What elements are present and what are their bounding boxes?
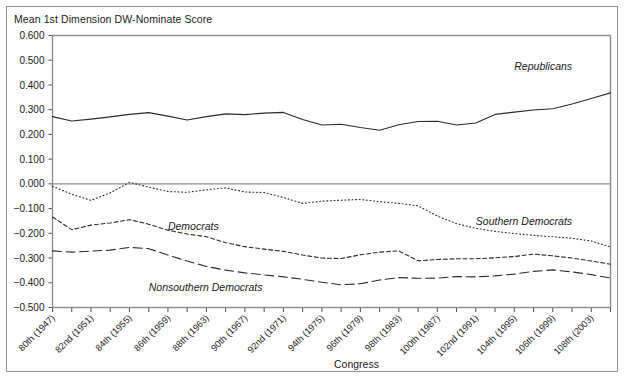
x-axis-tick-label: 104th (1995) (475, 313, 519, 357)
plot-area-wrapper: 0.6000.5000.4000.3000.2000.1000.000−0.10… (0, 0, 624, 378)
x-axis-tick-label: 84th (1955) (94, 313, 134, 353)
x-axis-tick-label: 82nd (1951) (53, 313, 95, 355)
data-series-group (53, 93, 611, 285)
x-axis-tick-label: 94th (1975) (286, 313, 326, 353)
series-label-democrats: Democrats (168, 220, 220, 232)
y-axis-tick-label: −0.200 (14, 228, 45, 239)
series-line-nonsouthern-democrats (53, 247, 611, 284)
x-axis-tick-group: 80th (1947)82nd (1951)84th (1955)86th (1… (17, 308, 611, 359)
x-axis-tick-label: 88th (1963) (171, 313, 211, 353)
x-axis-tick-label: 80th (1947) (17, 313, 57, 353)
x-axis-tick-label: 98th (1983) (363, 313, 403, 353)
y-axis-tick-label: 0.100 (19, 154, 44, 165)
line-chart-svg: 0.6000.5000.4000.3000.2000.1000.000−0.10… (0, 0, 624, 378)
x-axis-tick-label: 92nd (1971) (246, 313, 288, 355)
series-label-republicans: Republicans (514, 60, 573, 72)
x-axis-tick-label: 106th (1999) (513, 313, 557, 357)
x-axis-title: Congress (334, 358, 379, 370)
x-axis-tick-label: 96th (1979) (324, 313, 364, 353)
x-axis-tick-label: 86th (1959) (132, 313, 172, 353)
y-axis-tick-label: 0.500 (19, 55, 44, 66)
y-axis-tick-label: 0.000 (19, 178, 44, 189)
y-axis-tick-label: −0.100 (14, 203, 45, 214)
series-label-nonsouthern-democrats: Nonsouthern Democrats (149, 281, 264, 293)
y-axis-tick-label: −0.500 (14, 302, 45, 313)
series-label-southern-democrats: Southern Democrats (476, 215, 573, 227)
y-axis-tick-label: 0.400 (19, 80, 44, 91)
y-axis-tick-label: 0.300 (19, 104, 44, 115)
y-axis-tick-label: 0.600 (19, 30, 44, 41)
y-axis-tick-group: 0.6000.5000.4000.3000.2000.1000.000−0.10… (14, 30, 53, 313)
series-annotation-group: RepublicansSouthern DemocratsDemocratsNo… (149, 60, 573, 293)
y-axis-tick-label: −0.300 (14, 253, 45, 264)
chart-figure: Mean 1st Dimension DW-Nominate Score 0.6… (0, 0, 624, 378)
x-axis-tick-label: 108th (2003) (552, 313, 596, 357)
y-axis-tick-label: 0.200 (19, 129, 44, 140)
y-axis-tick-label: −0.400 (14, 277, 45, 288)
series-line-republicans (53, 93, 611, 130)
plot-frame (53, 36, 611, 308)
x-axis-tick-label: 90th (1967) (209, 313, 249, 353)
